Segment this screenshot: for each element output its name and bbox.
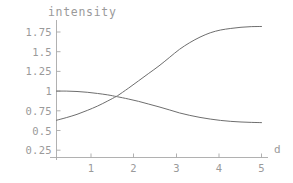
data-curves bbox=[57, 26, 262, 122]
x-tick-label: 3 bbox=[173, 162, 180, 174]
curve-rising bbox=[57, 26, 262, 120]
x-axis-title: d bbox=[274, 143, 281, 156]
intensity-vs-d-plot: 1.75 1.5 1.25 1 0.75 0.5 0.25 intensity … bbox=[0, 0, 293, 183]
y-tick-label: 1.75 bbox=[26, 26, 53, 38]
curve-falling bbox=[57, 91, 262, 123]
x-axis-group: 1 2 3 4 5 d bbox=[50, 143, 281, 174]
x-tick-label: 2 bbox=[130, 162, 137, 174]
x-tick-label: 1 bbox=[88, 162, 95, 174]
y-tick-label: 0.25 bbox=[26, 144, 53, 156]
y-tick-label: 0.5 bbox=[32, 125, 52, 137]
y-tick-label: 1 bbox=[45, 85, 52, 97]
x-tick-marks bbox=[91, 154, 262, 158]
y-tick-label: 1.25 bbox=[26, 65, 53, 77]
plot-canvas: 1.75 1.5 1.25 1 0.75 0.5 0.25 intensity … bbox=[0, 0, 293, 183]
y-axis-title: intensity bbox=[48, 5, 117, 19]
y-tick-label: 1.5 bbox=[32, 46, 52, 58]
x-tick-label: 5 bbox=[258, 162, 265, 174]
y-axis-group: 1.75 1.5 1.25 1 0.75 0.5 0.25 intensity bbox=[26, 5, 117, 160]
x-tick-label: 4 bbox=[216, 162, 223, 174]
y-tick-labels: 1.75 1.5 1.25 1 0.75 0.5 0.25 bbox=[26, 26, 53, 156]
x-tick-labels: 1 2 3 4 5 bbox=[88, 162, 265, 174]
y-tick-label: 0.75 bbox=[26, 105, 53, 117]
